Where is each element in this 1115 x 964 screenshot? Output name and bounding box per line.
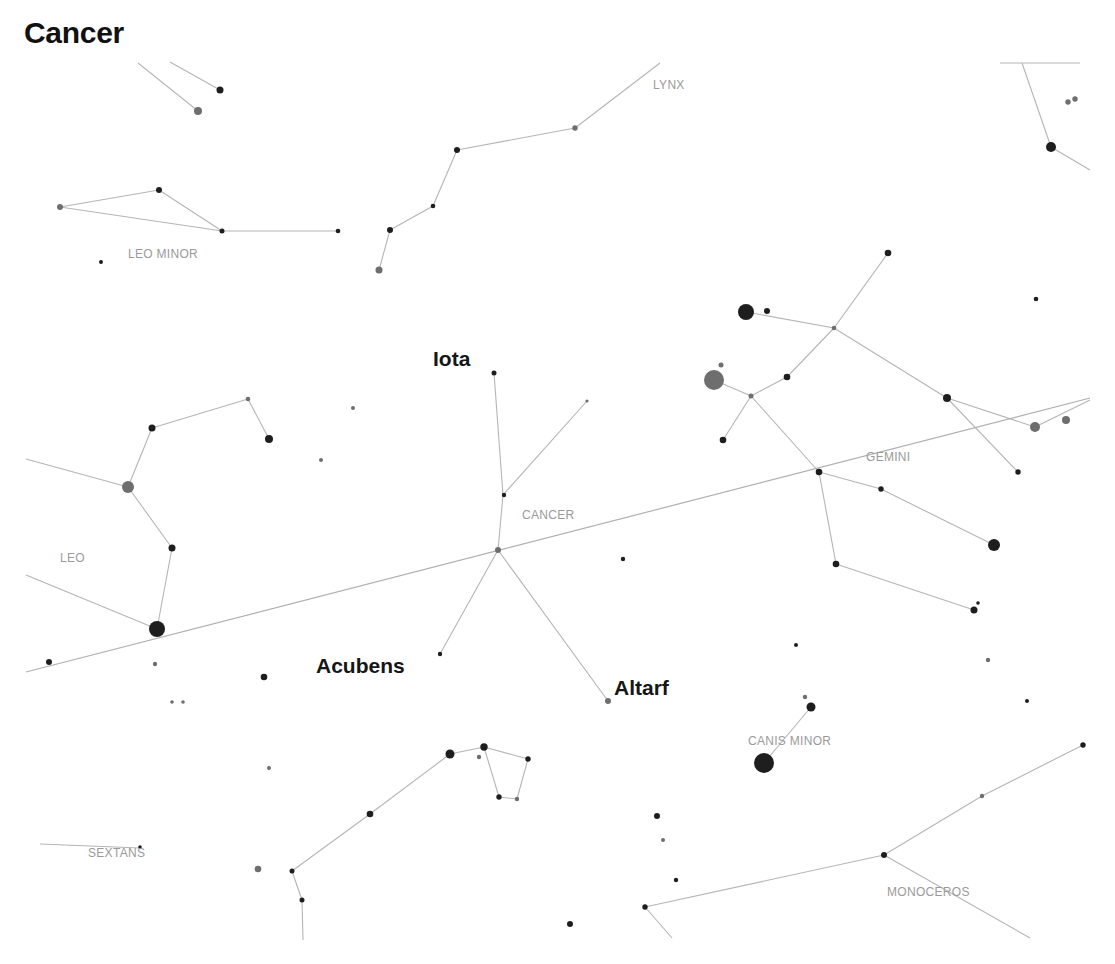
star[interactable] [290,869,295,874]
star[interactable] [976,601,980,605]
star[interactable] [149,425,156,432]
star[interactable] [807,703,816,712]
star[interactable] [567,921,573,927]
star[interactable] [265,435,273,443]
star[interactable] [719,363,724,368]
star[interactable] [220,229,225,234]
star[interactable] [122,481,134,493]
constellation-line [370,754,450,814]
star-label-altarf[interactable]: Altarf [614,676,670,699]
star[interactable] [170,700,174,704]
star[interactable] [1072,96,1077,101]
star[interactable] [496,794,501,799]
star[interactable] [194,107,202,115]
star[interactable] [642,904,647,909]
star[interactable] [720,437,727,444]
star[interactable] [704,370,724,390]
star[interactable] [794,643,798,647]
star[interactable] [749,394,754,399]
star[interactable] [387,227,393,233]
constellation-line [645,907,672,938]
star[interactable] [621,557,625,561]
star[interactable] [980,794,984,798]
star[interactable] [255,866,262,873]
star[interactable] [833,561,840,568]
constellation-line [836,564,974,610]
star[interactable] [986,658,990,662]
star[interactable] [754,753,774,773]
star[interactable] [515,797,519,801]
star[interactable] [261,674,268,681]
star[interactable] [446,750,455,759]
star[interactable] [454,147,460,153]
star[interactable] [57,204,63,210]
star[interactable] [149,621,165,637]
star[interactable] [1080,742,1085,747]
star[interactable] [336,229,341,234]
star[interactable] [784,374,791,381]
star[interactable] [351,406,355,410]
star[interactable] [1034,297,1039,302]
star[interactable] [502,493,506,497]
star[interactable] [246,397,251,402]
star[interactable] [674,878,678,882]
constellation-label-sextans[interactable]: SEXTANS [88,846,145,860]
star[interactable] [376,267,383,274]
star-labels: IotaAcubensAltarf [316,347,670,699]
star[interactable] [46,659,52,665]
star[interactable] [169,545,176,552]
star[interactable] [153,662,157,666]
star[interactable] [495,547,501,553]
constellation-label-monoceros[interactable]: MONOCEROS [887,885,970,899]
star-label-iota[interactable]: Iota [433,347,471,370]
star[interactable] [438,652,442,656]
constellation-line [787,328,834,377]
star-label-acubens[interactable]: Acubens [316,654,405,677]
star[interactable] [525,756,530,761]
star[interactable] [156,187,162,193]
star[interactable] [431,204,436,209]
star[interactable] [832,326,837,331]
star[interactable] [572,125,577,130]
constellation-label-leo[interactable]: LEO [60,551,85,565]
star[interactable] [319,458,323,462]
star[interactable] [878,486,883,491]
star[interactable] [217,87,224,94]
star[interactable] [585,399,588,402]
constellation-line [457,128,575,150]
star[interactable] [816,469,823,476]
star[interactable] [661,838,665,842]
star[interactable] [654,813,660,819]
constellation-line [440,550,498,654]
constellation-label-gemini[interactable]: GEMINI [866,450,910,464]
star[interactable] [480,743,487,750]
star[interactable] [988,539,1000,551]
star[interactable] [492,371,497,376]
star[interactable] [1062,416,1070,424]
star[interactable] [1015,469,1020,474]
star[interactable] [881,852,887,858]
star[interactable] [885,250,892,257]
star[interactable] [267,766,271,770]
star[interactable] [477,755,481,759]
star[interactable] [738,304,754,320]
star[interactable] [1046,142,1056,152]
star-map[interactable]: LYNXLEO MINORLEOCANCERGEMINICANIS MINORS… [0,0,1115,964]
constellation-label-lynx[interactable]: LYNX [653,78,685,92]
star[interactable] [181,700,185,704]
star[interactable] [367,811,374,818]
constellation-label-canis-minor[interactable]: CANIS MINOR [748,734,831,748]
star[interactable] [943,394,951,402]
constellation-line [751,377,787,396]
star[interactable] [300,898,305,903]
star[interactable] [803,695,807,699]
star[interactable] [764,308,770,314]
star[interactable] [971,607,978,614]
star[interactable] [1030,422,1040,432]
constellation-label-cancer[interactable]: CANCER [522,508,575,522]
star[interactable] [99,260,103,264]
star[interactable] [1025,699,1029,703]
constellation-label-leo-minor[interactable]: LEO MINOR [128,247,198,261]
star[interactable] [1065,99,1070,104]
star[interactable] [605,698,611,704]
